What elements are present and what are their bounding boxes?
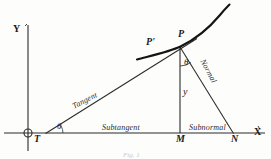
point-label-m: M: [176, 134, 185, 144]
y-axis-label: Y: [13, 24, 20, 34]
point-label-n: N: [231, 134, 238, 144]
angle-arc-theta-t: [61, 126, 63, 133]
ordinate-label-y: y: [183, 87, 187, 97]
figure-caption: Fig. 1: [123, 151, 140, 159]
segment-label-subtangent: Subtangent: [102, 124, 140, 132]
angle-label-theta-at-p: θ: [184, 58, 188, 67]
point-label-p-prime: P': [146, 37, 155, 47]
point-label-p: P: [178, 29, 184, 39]
segment-label-subnormal: Subnormal: [189, 124, 226, 132]
y-axis-tick: [25, 24, 27, 26]
angle-label-theta-at-t: θ: [57, 122, 61, 131]
point-label-t: T: [34, 134, 40, 144]
tangent-line: [46, 39, 198, 134]
geometry-figure: Y X T M N P P' θ θ y Tangent Normal Subt…: [0, 0, 271, 159]
x-axis-label: X: [254, 127, 261, 137]
